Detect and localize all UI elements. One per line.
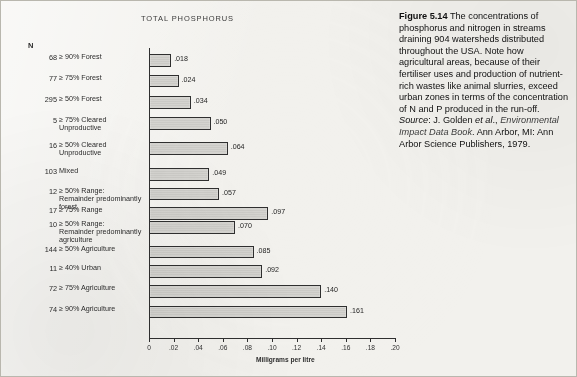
bar-container	[149, 285, 321, 298]
figure-label: Figure 5.14	[399, 11, 448, 21]
row-category-label: ≥ 50% Cleared Unproductive	[59, 141, 147, 157]
bar-chart: TOTAL PHOSPHORUS N 68≥ 90% Forest.01877≥…	[1, 1, 301, 377]
source-after-etal: .,	[492, 115, 497, 125]
row-category-label: ≥ 75% Cleared Unproductive	[59, 116, 147, 132]
x-axis-tick	[370, 338, 371, 342]
chart-row: 5≥ 75% Cleared Unproductive.050	[1, 116, 301, 136]
x-axis-tick	[198, 338, 199, 342]
bar-value-label: .064	[231, 143, 245, 151]
row-n-value: 144	[21, 245, 57, 254]
bar-container	[149, 54, 171, 67]
bar-value-label: .140	[324, 286, 338, 294]
row-n-value: 17	[21, 206, 57, 215]
bar-value-label: .092	[265, 266, 279, 274]
bar-container	[149, 265, 262, 278]
figure-caption-body: The concentrations of phosphorus and nit…	[399, 11, 568, 114]
row-category-label: ≥ 90% Forest	[59, 53, 147, 61]
bar-value-label: .024	[182, 76, 196, 84]
source-etal: et al	[475, 115, 492, 125]
x-axis-tick	[223, 338, 224, 342]
bar-value-label: .085	[257, 247, 271, 255]
row-category-label: ≥ 75% Range	[59, 206, 147, 214]
bar	[149, 54, 171, 67]
row-n-value: 5	[21, 116, 57, 125]
x-axis-tick	[321, 338, 322, 342]
x-axis-tick-label: .08	[243, 344, 252, 351]
row-n-value: 10	[21, 220, 57, 229]
x-axis-tick	[174, 338, 175, 342]
row-n-value: 12	[21, 187, 57, 196]
row-n-value: 77	[21, 74, 57, 83]
bar-container	[149, 96, 191, 109]
source-colon: : J. Golden	[428, 115, 475, 125]
x-axis-tick-label: .06	[218, 344, 227, 351]
bar-value-label: .050	[214, 118, 228, 126]
bar	[149, 246, 254, 259]
chart-row: 77≥ 75% Forest.024	[1, 74, 301, 94]
n-column-header: N	[28, 41, 33, 50]
bar	[149, 188, 219, 201]
row-n-value: 11	[21, 264, 57, 273]
bar-container	[149, 75, 179, 88]
bar	[149, 306, 347, 319]
bar	[149, 117, 211, 130]
row-category-label: ≥ 75% Forest	[59, 74, 147, 82]
row-n-value: 295	[21, 95, 57, 104]
chart-row: 11≥ 40% Urban.092	[1, 264, 301, 284]
row-category-label: ≥ 40% Urban	[59, 264, 147, 272]
bar-value-label: .034	[194, 97, 208, 105]
bar	[149, 221, 235, 234]
x-axis-tick	[346, 338, 347, 342]
chart-row: 12≥ 50% Range: Remainder predominantly f…	[1, 187, 301, 207]
source-prefix: Source	[399, 115, 428, 125]
row-category-label: ≥ 75% Agriculture	[59, 284, 147, 292]
row-n-value: 68	[21, 53, 57, 62]
row-category-label: ≥ 50% Range: Remainder predominantly agr…	[59, 220, 147, 245]
chart-row: 72≥ 75% Agriculture.140	[1, 284, 301, 304]
chart-row: 295≥ 50% Forest.034	[1, 95, 301, 115]
bar-container	[149, 117, 211, 130]
bar-container	[149, 142, 228, 155]
x-axis-tick	[297, 338, 298, 342]
x-axis-tick-label: .20	[390, 344, 399, 351]
scanned-page: TOTAL PHOSPHORUS N 68≥ 90% Forest.01877≥…	[0, 0, 577, 377]
x-axis-tick-label: .10	[267, 344, 276, 351]
row-n-value: 74	[21, 305, 57, 314]
bar-value-label: .057	[222, 189, 236, 197]
bar-value-label: .070	[238, 222, 252, 230]
x-axis-tick-label: .04	[194, 344, 203, 351]
row-n-value: 16	[21, 141, 57, 150]
x-axis-tick-label: .02	[169, 344, 178, 351]
bar-value-label: .097	[271, 208, 285, 216]
x-axis-label: Milligrams per litre	[256, 356, 315, 363]
x-axis-tick	[272, 338, 273, 342]
bar-container	[149, 188, 219, 201]
x-axis-tick	[149, 338, 150, 342]
chart-row: 103Mixed.049	[1, 167, 301, 187]
bar	[149, 142, 228, 155]
bar	[149, 265, 262, 278]
row-category-label: ≥ 50% Forest	[59, 95, 147, 103]
chart-row: 74≥ 90% Agriculture.161	[1, 305, 301, 325]
bar-value-label: .018	[174, 55, 188, 63]
row-category-label: Mixed	[59, 167, 147, 175]
bar	[149, 96, 191, 109]
row-n-value: 72	[21, 284, 57, 293]
chart-title: TOTAL PHOSPHORUS	[141, 14, 234, 23]
bar	[149, 207, 268, 220]
bar-container	[149, 207, 268, 220]
x-axis-tick-label: 0	[147, 344, 151, 351]
chart-row: 10≥ 50% Range: Remainder predominantly a…	[1, 220, 301, 240]
bar-container	[149, 246, 254, 259]
row-n-value: 103	[21, 167, 57, 176]
bar-container	[149, 221, 235, 234]
chart-row: 68≥ 90% Forest.018	[1, 53, 301, 73]
bar-value-label: .049	[212, 169, 226, 177]
x-axis-tick-label: .16	[341, 344, 350, 351]
x-axis-tick	[247, 338, 248, 342]
bar-container	[149, 168, 209, 181]
x-axis-tick-label: .12	[292, 344, 301, 351]
x-axis-line	[149, 338, 395, 339]
row-category-label: ≥ 90% Agriculture	[59, 305, 147, 313]
bar-container	[149, 306, 347, 319]
